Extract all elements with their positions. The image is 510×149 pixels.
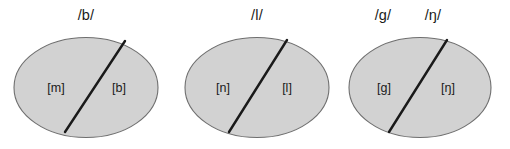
ellipse-svg-l — [184, 0, 330, 149]
ellipse-svg-b — [13, 0, 159, 149]
phoneme-group-g: /g/ /ŋ/ [g] [ŋ] — [347, 0, 493, 149]
phoneme-diagram: /b/ [m] [b] /l/ [n] [l] /g/ /ŋ/ [g] [ŋ] — [0, 0, 510, 149]
allophone-label-g: [g] — [363, 81, 405, 95]
allophone-label-eng: [ŋ] — [427, 81, 469, 95]
phoneme-group-l: /l/ [n] [l] — [184, 0, 330, 149]
allophone-label-m: [m] — [35, 81, 77, 95]
ellipse-svg-g — [347, 0, 493, 149]
allophone-label-l: [l] — [266, 81, 308, 95]
allophone-label-b: [b] — [98, 81, 140, 95]
phoneme-group-b: /b/ [m] [b] — [13, 0, 159, 149]
allophone-label-n: [n] — [202, 81, 244, 95]
